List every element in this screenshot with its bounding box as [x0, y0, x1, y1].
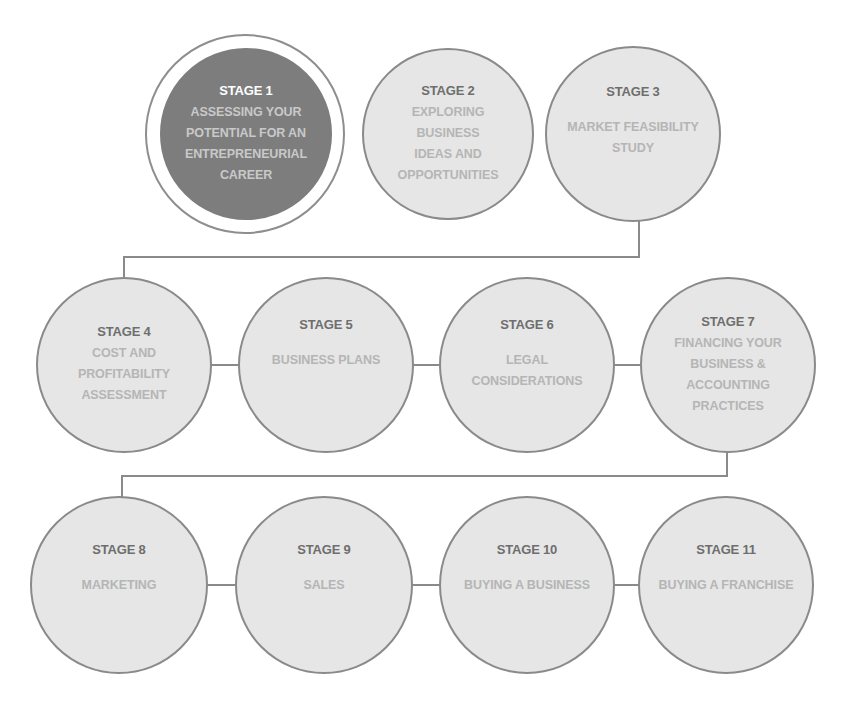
stage-4-node[interactable]: STAGE 4 COST AND PROFITABILITY ASSESSMEN…: [36, 277, 212, 453]
connector-row3-left-down: [121, 475, 123, 497]
stage-6-node[interactable]: STAGE 6 LEGAL CONSIDERATIONS: [439, 277, 615, 453]
stage-1-description: ASSESSING YOUR POTENTIAL FOR AN ENTREPRE…: [185, 102, 307, 186]
stage-4-label: STAGE 4: [97, 324, 150, 339]
stage-6-label: STAGE 6: [500, 317, 553, 332]
stage-11-node[interactable]: STAGE 11 BUYING A FRANCHISE: [638, 496, 814, 674]
stage-10-description: BUYING A BUSINESS: [464, 575, 590, 596]
stage-1-label: STAGE 1: [219, 83, 272, 98]
stage-10-node[interactable]: STAGE 10 BUYING A BUSINESS: [439, 496, 615, 674]
stage-9-node[interactable]: STAGE 9 SALES: [235, 496, 413, 674]
stage-4-description: COST AND PROFITABILITY ASSESSMENT: [78, 343, 170, 406]
stage-1-node[interactable]: STAGE 1 ASSESSING YOUR POTENTIAL FOR AN …: [160, 48, 332, 220]
stage-2-description: EXPLORING BUSINESS IDEAS AND OPPORTUNITI…: [398, 102, 499, 186]
connector-4-5: [210, 364, 240, 366]
stage-7-label: STAGE 7: [701, 314, 754, 329]
stage-6-description: LEGAL CONSIDERATIONS: [472, 350, 583, 392]
stage-7-description: FINANCING YOUR BUSINESS & ACCOUNTING PRA…: [674, 333, 781, 417]
stage-2-node[interactable]: STAGE 2 EXPLORING BUSINESS IDEAS AND OPP…: [362, 48, 534, 220]
connector-6-7: [611, 364, 643, 366]
connector-3-down: [638, 218, 640, 258]
stage-3-description: MARKET FEASIBILITY STUDY: [567, 117, 699, 159]
stage-11-label: STAGE 11: [696, 542, 756, 557]
connector-row2-row3-horizontal: [121, 475, 728, 477]
stage-3-label: STAGE 3: [606, 84, 659, 99]
stage-5-label: STAGE 5: [299, 317, 352, 332]
stage-5-node[interactable]: STAGE 5 BUSINESS PLANS: [238, 277, 414, 453]
stage-10-label: STAGE 10: [497, 542, 557, 557]
connector-5-6: [410, 364, 442, 366]
stage-9-description: SALES: [303, 575, 344, 596]
stage-8-node[interactable]: STAGE 8 MARKETING: [30, 496, 208, 674]
stage-5-description: BUSINESS PLANS: [272, 350, 380, 371]
stage-2-label: STAGE 2: [421, 83, 474, 98]
connector-9-10: [410, 584, 442, 586]
stage-8-description: MARKETING: [82, 575, 157, 596]
stage-3-node[interactable]: STAGE 3 MARKET FEASIBILITY STUDY: [545, 46, 721, 222]
stage-8-label: STAGE 8: [92, 542, 145, 557]
stage-7-node[interactable]: STAGE 7 FINANCING YOUR BUSINESS & ACCOUN…: [640, 277, 816, 453]
stage-11-description: BUYING A FRANCHISE: [659, 575, 794, 596]
stage-9-label: STAGE 9: [297, 542, 350, 557]
connector-row1-row2-horizontal: [123, 256, 640, 258]
